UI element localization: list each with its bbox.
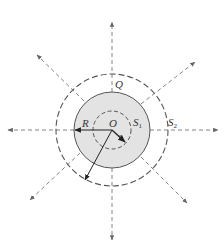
- field-line-upper-right: [141, 62, 195, 104]
- field-line-lower-right: [141, 157, 187, 203]
- field-line-upper-left: [37, 55, 84, 101]
- diagram-canvas: Q O R r S1 S2: [0, 0, 224, 250]
- field-line-lower-left: [30, 153, 80, 200]
- center-label: O: [109, 117, 117, 129]
- charge-label: Q: [115, 78, 123, 90]
- radius-r-label: r: [119, 132, 122, 140]
- radius-R-label: R: [81, 117, 89, 129]
- gauss-law-diagram: Q O R r S1 S2: [0, 0, 224, 250]
- surface-s2-label: S2: [168, 116, 178, 130]
